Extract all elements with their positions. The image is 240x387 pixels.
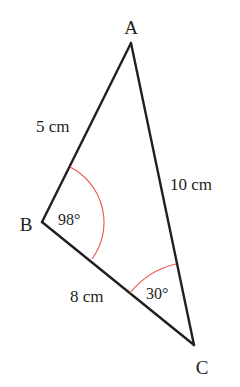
vertex-label-a: A bbox=[124, 17, 138, 38]
vertex-label-b: B bbox=[20, 214, 33, 235]
triangle-diagram: A B C 5 cm 10 cm 8 cm 98° 30° bbox=[0, 0, 240, 387]
vertex-label-c: C bbox=[196, 357, 209, 378]
angle-label-b: 98° bbox=[58, 211, 80, 228]
side-label-bc: 8 cm bbox=[70, 287, 104, 306]
side-label-ac: 10 cm bbox=[170, 175, 212, 194]
angle-label-c: 30° bbox=[146, 285, 168, 302]
side-label-ab: 5 cm bbox=[36, 117, 70, 136]
